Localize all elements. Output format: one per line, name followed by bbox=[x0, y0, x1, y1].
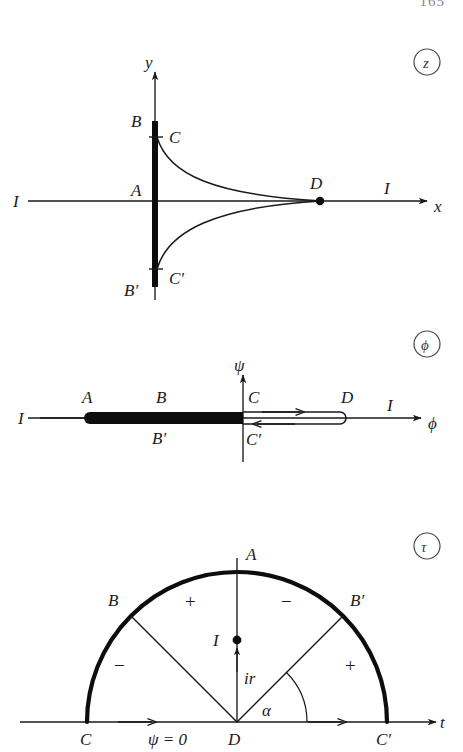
phi-label-A: A bbox=[81, 388, 93, 407]
z-point-d bbox=[316, 197, 324, 205]
tau-label-axis-t: t bbox=[440, 713, 446, 732]
figure-canvas: I I x y B B′ C C′ A D z bbox=[0, 0, 463, 752]
tau-sign-far-left: − bbox=[114, 655, 125, 676]
tau-label-ir: ir bbox=[244, 669, 256, 688]
tau-label-C: C bbox=[80, 730, 92, 749]
z-label-D: D bbox=[309, 174, 323, 193]
tau-radius-B bbox=[131, 616, 237, 722]
z-plane-badge: z bbox=[414, 49, 440, 75]
z-label-axis-x: x bbox=[433, 197, 442, 216]
phi-plane-badge-symbol: ϕ bbox=[421, 337, 429, 353]
tau-sign-far-right: + bbox=[345, 655, 356, 676]
tau-source-point-I bbox=[233, 636, 242, 645]
phi-label-axis-psi: ψ bbox=[234, 356, 245, 375]
z-label-Cprime: C′ bbox=[169, 269, 184, 288]
panel-phi-plane: I I ϕ ψ A B B′ C C′ D ϕ bbox=[17, 331, 440, 462]
tau-label-A: A bbox=[245, 545, 257, 564]
z-label-A: A bbox=[130, 181, 142, 200]
z-label-I-right: I bbox=[383, 179, 391, 198]
phi-label-D: D bbox=[340, 388, 354, 407]
tau-label-I: I bbox=[212, 631, 220, 650]
panel-tau-plane: A B B′ C C′ D t I ir α ψ = 0 + − − + τ bbox=[20, 533, 446, 749]
phi-label-Cprime: C′ bbox=[246, 430, 261, 449]
z-label-B: B bbox=[131, 112, 142, 131]
z-label-axis-y: y bbox=[143, 53, 153, 72]
phi-label-axis-phi: ϕ bbox=[428, 414, 437, 433]
phi-label-I-right: I bbox=[386, 396, 394, 415]
phi-label-B: B bbox=[156, 388, 167, 407]
tau-alpha-arc bbox=[286, 672, 307, 722]
phi-slit-solid bbox=[84, 412, 243, 424]
z-streamline-lower bbox=[157, 201, 322, 269]
tau-label-D: D bbox=[227, 730, 241, 749]
z-streamline-upper bbox=[157, 137, 322, 201]
tau-label-B: B bbox=[108, 591, 119, 610]
z-label-Bprime: B′ bbox=[124, 281, 138, 300]
tau-label-Bprime: B′ bbox=[350, 591, 364, 610]
phi-label-Bprime: B′ bbox=[152, 429, 166, 448]
tau-sign-upper-left: + bbox=[185, 591, 196, 612]
panel-z-plane: I I x y B B′ C C′ A D z bbox=[12, 49, 442, 300]
z-label-I-left: I bbox=[12, 192, 20, 211]
tau-label-psi-zero: ψ = 0 bbox=[148, 730, 188, 749]
phi-plane-badge: ϕ bbox=[414, 331, 440, 357]
z-plane-badge-symbol: z bbox=[422, 55, 429, 71]
tau-plane-badge: τ bbox=[414, 533, 440, 559]
tau-label-Cprime: C′ bbox=[376, 730, 391, 749]
tau-label-alpha: α bbox=[262, 701, 272, 720]
tau-plane-badge-symbol: τ bbox=[421, 539, 427, 555]
figure-page: 165 bbox=[0, 0, 463, 752]
z-label-C: C bbox=[169, 128, 181, 147]
tau-sign-upper-right: − bbox=[281, 591, 292, 612]
phi-label-C: C bbox=[248, 388, 260, 407]
phi-label-I-left: I bbox=[17, 409, 25, 428]
